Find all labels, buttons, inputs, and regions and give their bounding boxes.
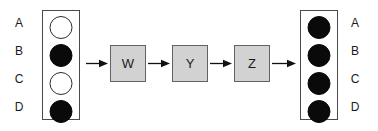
input-panel	[42, 10, 80, 120]
process-box-z-label: Z	[248, 56, 256, 71]
output-circle-b	[308, 44, 331, 67]
input-row-label-a: A	[12, 17, 26, 29]
input-circle-d	[50, 100, 73, 123]
input-circle-a	[50, 16, 73, 39]
output-row-label-c: C	[348, 73, 362, 85]
output-row-label-d: D	[348, 101, 362, 113]
input-circle-c	[50, 72, 73, 95]
input-row-label-d: D	[12, 101, 26, 113]
process-box-y-label: Y	[186, 56, 195, 71]
input-row-label-b: B	[12, 45, 26, 57]
process-box-z[interactable]: Z	[234, 45, 270, 82]
output-row-label-a: A	[348, 17, 362, 29]
process-box-y[interactable]: Y	[172, 45, 208, 82]
process-box-w[interactable]: W	[110, 45, 146, 82]
arrow-y-to-z	[210, 59, 232, 68]
input-circle-b	[50, 44, 73, 67]
output-panel	[300, 10, 338, 120]
arrow-w-to-y	[148, 59, 170, 68]
process-flow-diagram: A B C D W Y Z	[0, 0, 378, 131]
arrow-input-to-w	[86, 59, 108, 68]
output-circle-a	[308, 16, 331, 39]
output-circle-c	[308, 72, 331, 95]
input-row-label-c: C	[12, 73, 26, 85]
process-box-w-label: W	[122, 56, 134, 71]
arrow-z-to-output	[272, 59, 296, 68]
output-circle-d	[308, 100, 331, 123]
output-row-label-b: B	[348, 45, 362, 57]
